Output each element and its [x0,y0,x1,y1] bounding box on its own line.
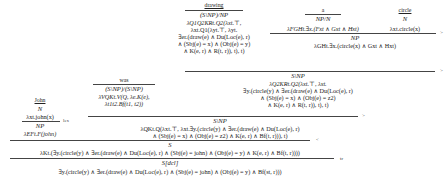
category-john-np: NP [36,122,44,129]
category-a-circle: NP [351,34,359,41]
semantics-was-vp-1: λQKt.Q(λxt.⊤, λxt.∃y.(circle(y) ∧ ∃er.(d… [140,125,299,132]
word-a: a [322,7,325,14]
rule-label-forward: > [440,68,443,74]
word-john: John [35,97,46,104]
rule-label-tr: tr [340,156,343,162]
semantics-drawing-2: λxt.Q1(λyt.⊤, λyt. [191,26,238,33]
semantics-was-1: λVQKt.V(Q, λe.K(e), [98,93,149,100]
rule-label-lex: lex [63,118,69,124]
word-drawing: drawing [205,2,224,9]
rule-label-forward: > [440,30,443,36]
semantics-was-2: λt1t2.Bf(t1, t2)) [105,100,143,107]
semantics-john: λxt.john(x) [26,113,54,120]
rule-line-sentence [10,140,310,141]
rule-label-backward: < [316,137,319,143]
rule-line-drawing-a-circle [185,71,435,72]
semantics-dac-3: ∧ (Sbj(e) = x) ∧ (Obj(e) = z2) [260,94,335,101]
semantics-drawing-1: λQ1Q2KRt.Q2(λxt.⊤, [187,19,242,26]
category-was: (S\NP)/(S\NP) [105,85,143,92]
semantics-drawing-5: ∧ K(e, r) ∧ R(t, r)), t), t) [183,47,244,54]
semantics-a: λFGHt.∃x.(Fxt ∧ Gxt ∧ Hxt) [287,25,359,32]
category-drawing-a-circle: S\NP [291,72,305,79]
semantics-dac-4: ∧ K(e, r) ∧ R(t, r)), t), t) [267,101,328,108]
category-circle: N [403,15,407,22]
semantics-dac-2: ∃y.(circle(y) ∧ ∃er.(draw(e) ∧ Du(Loc(e)… [243,87,353,94]
semantics-dac-1: λQ2KRt.Q2(λxt.⊤, λxt. [269,80,326,87]
category-a: NP/N [316,15,331,22]
category-final: S[dcl] [162,159,178,166]
category-drawing: (S\NP)/NP [200,11,228,18]
semantics-drawing-4: ∧ (Sbj(e) = x) ∧ (Obj(e) = y) [178,40,251,47]
semantics-sentence: λKt.(∃y.(circle(y) ∧ ∃er.(draw(e) ∧ Du(L… [40,149,300,156]
category-sentence: S [168,141,171,148]
category-was-vp: S\NP [213,117,227,124]
category-john: N [38,105,42,112]
rule-label-forward: > [362,113,365,119]
semantics-circle: λxt.circle(x) [390,25,420,32]
semantics-final: ∃y.(circle(y) ∧ ∃er.(draw(e) ∧ Du(Loc(e)… [58,168,281,175]
semantics-was-vp-2: ∧ (Sbj(e) = x) ∧ (Obj(e) = z2) ∧ K(e, r)… [152,132,287,139]
word-circle: circle [399,7,412,14]
word-was: was [119,77,128,84]
semantics-drawing-3: ∃er.(draw(e) ∧ Du(Loc(e), r) [178,33,250,40]
semantics-a-circle: λGHt.∃x.(circle(x) ∧ Gxt ∧ Hxt) [314,42,396,49]
semantics-john-np: λEFt.F(john) [24,130,56,137]
